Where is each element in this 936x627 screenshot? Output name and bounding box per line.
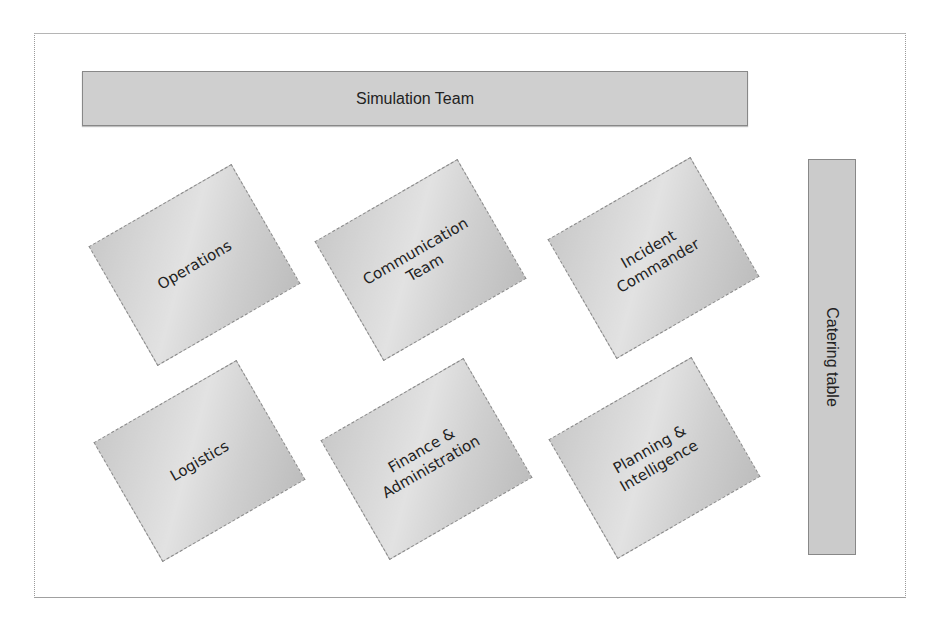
station-label: Planning & Intelligence [607,420,702,497]
station-label: Communication Team [360,214,481,306]
catering-table: Catering table [808,159,856,555]
station-label: Operations [154,236,235,294]
catering-table-label: Catering table [823,307,841,407]
station-label: Finance & Administration [369,415,483,503]
station-label: Logistics [167,437,233,486]
simulation-team-table: Simulation Team [82,71,748,126]
station-label: Incident Commander [604,218,703,297]
simulation-team-label: Simulation Team [356,90,474,108]
